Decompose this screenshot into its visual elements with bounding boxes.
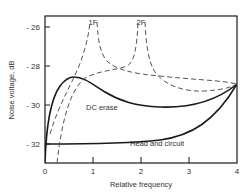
x-tick-label: 1 (91, 167, 96, 176)
x-tick-label: 4 (235, 167, 240, 176)
x-axis-title: Relative frequency (110, 180, 172, 189)
x-axis-tick-labels: 0 1 2 3 4 (43, 167, 240, 176)
y-tick-label: - 30 (26, 101, 40, 110)
y-axis-title: Noise voltage, dB (7, 61, 16, 120)
x-axis-ticks (93, 157, 189, 163)
y-axis-tick-labels: - 26 - 28 - 30 - 32 (26, 23, 40, 149)
y-tick-label: - 32 (26, 140, 40, 149)
x-tick-label: 3 (187, 167, 192, 176)
y-tick-label: - 28 (26, 62, 40, 71)
label-dc-erase: DC erase (86, 103, 118, 112)
label-1f: 1F (89, 18, 98, 27)
x-tick-label: 0 (43, 167, 48, 176)
y-tick-label: - 26 (26, 23, 40, 32)
label-2f: 2F (137, 18, 146, 27)
x-tick-label: 2 (139, 167, 144, 176)
label-head-and-circuit: Head and circuit (130, 139, 185, 148)
noise-voltage-chart: - 26 - 28 - 30 - 32 0 1 2 3 4 Relative f… (0, 0, 249, 192)
curve-labels: 1F 2F DC erase Head and circuit (86, 18, 185, 148)
